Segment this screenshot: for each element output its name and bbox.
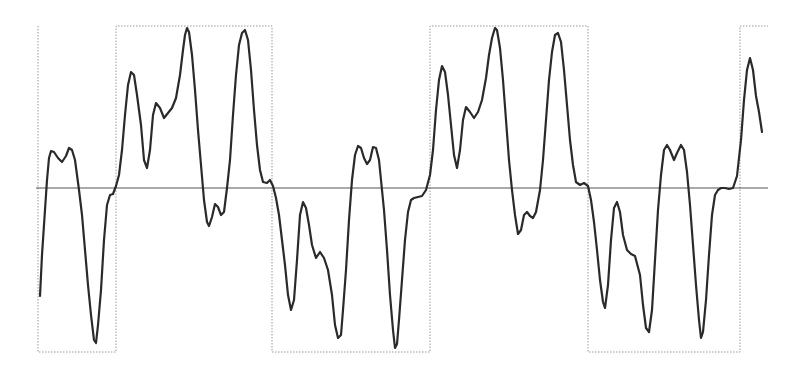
waveform-plot [0,0,805,368]
square-reference [38,26,768,352]
